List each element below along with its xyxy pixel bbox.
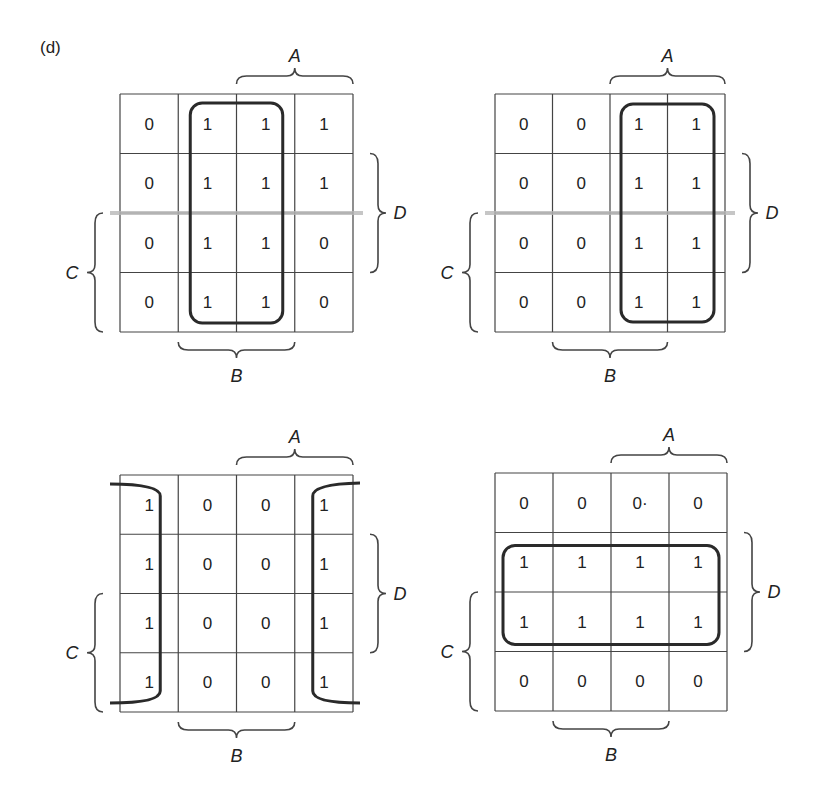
kmap-cell: 1 (519, 613, 528, 632)
brace-icon (178, 342, 295, 358)
scan-smudge (485, 211, 735, 215)
brace-icon (237, 68, 354, 84)
kmap-cell: 1 (692, 174, 701, 193)
kmap-cell: 1 (203, 293, 212, 312)
kmap-cell: 1 (261, 115, 270, 134)
kmap-cell: 1 (261, 234, 270, 253)
brace-icon (553, 342, 668, 358)
kmap-cell: 0 (577, 494, 586, 513)
brace-icon (744, 533, 760, 652)
variable-label-a: A (660, 46, 673, 66)
kmap-cell: 1 (319, 496, 328, 515)
kmap-cell: 1 (203, 174, 212, 193)
kmap-cell: 0 (144, 174, 153, 193)
kmap-grid (495, 473, 727, 711)
map-top-left: 0111011101100110ABCD (66, 46, 407, 386)
brace-icon (178, 722, 295, 738)
kmap-cell: 1 (577, 613, 586, 632)
variable-label-d: D (394, 584, 407, 604)
kmap-cell: 1 (693, 553, 702, 572)
variable-label-a: A (288, 46, 301, 66)
kmap-cell: 1 (634, 234, 643, 253)
kmap-cell: 0 (144, 293, 153, 312)
variable-label-b: B (605, 745, 617, 765)
kmap-cell: 0 (519, 293, 528, 312)
kmap-cell: 1 (577, 553, 586, 572)
brace-icon (610, 68, 725, 84)
kmap-cell: 1 (261, 293, 270, 312)
brace-icon (553, 721, 669, 737)
variable-label-b: B (230, 746, 242, 766)
kmap-cell: 1 (693, 613, 702, 632)
variable-label-d: D (766, 203, 779, 223)
kmap-cell: 0 (144, 234, 153, 253)
kmap-cell: 1 (144, 496, 153, 515)
kmap-cell: 0 (693, 494, 702, 513)
kmap-cell: 1 (319, 174, 328, 193)
kmap-canvas: 0111011101100110ABCD0011001100110011ABCD… (0, 0, 825, 810)
kmap-cell: 0 (519, 115, 528, 134)
brace-icon (611, 447, 727, 463)
kmap-cell: 0 (261, 555, 270, 574)
kmap-cell: 1 (319, 614, 328, 633)
kmap-cell: 0 (261, 496, 270, 515)
kmap-cell: 0 (261, 614, 270, 633)
brace-icon (237, 449, 354, 465)
variable-label-b: B (230, 366, 242, 386)
kmap-cell: 0 (203, 496, 212, 515)
variable-label-a: A (288, 427, 301, 447)
brace-icon (462, 213, 478, 332)
kmap-cell: 0 (635, 672, 644, 691)
kmap-cell: 0 (577, 672, 586, 691)
variable-label-b: B (604, 366, 616, 386)
brace-icon (87, 213, 103, 332)
kmap-cell: 1 (635, 613, 644, 632)
kmap-cell: 0 (203, 555, 212, 574)
kmap-cell: 1 (319, 555, 328, 574)
kmap-cell: 0 (203, 673, 212, 692)
kmap-cell: 0· (632, 494, 647, 513)
kmap-cell: 0 (577, 234, 586, 253)
kmap-cell: 1 (319, 115, 328, 134)
kmap-cell: 0 (519, 672, 528, 691)
kmap-cell: 1 (692, 234, 701, 253)
kmap-cell: 1 (692, 115, 701, 134)
kmap-cell: 1 (634, 174, 643, 193)
kmap-cell: 0 (319, 234, 328, 253)
kmap-cell: 1 (144, 614, 153, 633)
map-bottom-left: 1001100110011001ABCD (66, 427, 407, 766)
kmap-cell: 1 (319, 673, 328, 692)
variable-label-c: C (441, 642, 455, 662)
kmap-grid (120, 475, 353, 712)
kmap-cell: 1 (144, 673, 153, 692)
kmap-cell: 0 (261, 673, 270, 692)
variable-label-a: A (662, 425, 675, 445)
scan-smudge (110, 211, 363, 215)
kmap-cell: 0 (519, 174, 528, 193)
kmap-cell: 1 (203, 115, 212, 134)
variable-label-c: C (66, 643, 80, 663)
variable-label-c: C (66, 263, 80, 283)
variable-label-c: C (441, 263, 455, 283)
variable-label-d: D (768, 582, 781, 602)
kmap-cell: 0 (577, 293, 586, 312)
kmap-cell: 1 (692, 293, 701, 312)
kmap-cell: 1 (519, 553, 528, 572)
variable-label-d: D (394, 203, 407, 223)
brace-icon (742, 154, 758, 273)
kmap-cell: 0 (519, 494, 528, 513)
kmap-cell: 0 (577, 115, 586, 134)
map-top-right: 0011001100110011ABCD (441, 46, 779, 386)
map-bottom-right: 000·0111111110000ABCD (441, 425, 781, 765)
kmap-cell: 0 (319, 293, 328, 312)
kmap-cell: 1 (261, 174, 270, 193)
kmap-cell: 1 (635, 553, 644, 572)
brace-icon (370, 154, 386, 273)
kmap-cell: 0 (577, 174, 586, 193)
brace-icon (87, 594, 103, 713)
kmap-cell: 0 (144, 115, 153, 134)
kmap-cell: 1 (634, 115, 643, 134)
kmap-cell: 0 (519, 234, 528, 253)
kmap-cell: 0 (693, 672, 702, 691)
kmap-cell: 1 (634, 293, 643, 312)
